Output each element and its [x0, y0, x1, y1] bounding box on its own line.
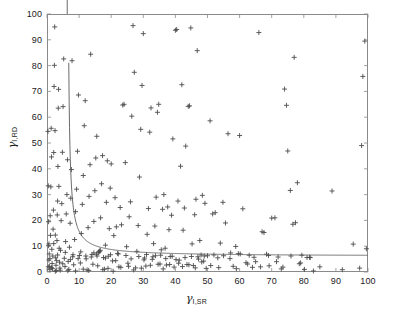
- scatter-marker: [98, 215, 103, 220]
- scatter-marker: [175, 199, 180, 204]
- scatter-marker: [77, 253, 82, 258]
- scatter-marker: [100, 153, 105, 158]
- scatter-marker: [364, 246, 369, 251]
- y-tick-label: 60: [18, 112, 42, 122]
- y-tick-label: 30: [18, 190, 42, 200]
- scatter-marker: [247, 253, 252, 258]
- scatter-marker: [195, 48, 200, 53]
- scatter-marker: [63, 239, 68, 244]
- scatter-marker: [45, 129, 50, 134]
- scatter-marker: [215, 255, 220, 260]
- scatter-marker: [74, 187, 79, 192]
- scatter-marker: [61, 56, 66, 61]
- scatter-marker: [252, 255, 257, 260]
- scatter-marker: [88, 162, 93, 167]
- scatter-marker: [311, 268, 316, 273]
- scatter-marker: [176, 261, 181, 266]
- scatter-marker: [113, 195, 118, 200]
- scatter-marker: [183, 144, 188, 149]
- tick-marks: [47, 14, 368, 272]
- scatter-marker: [51, 150, 56, 155]
- scatter-marker: [73, 268, 78, 273]
- scatter-marker: [64, 192, 69, 197]
- scatter-marker: [267, 263, 272, 268]
- scatter-marker: [200, 193, 205, 198]
- scatter-marker: [60, 150, 65, 155]
- scatter-marker: [189, 254, 194, 259]
- scatter-marker: [92, 188, 97, 193]
- scatter-marker: [113, 258, 118, 263]
- scatter-marker: [87, 194, 92, 199]
- scatter-marker: [103, 243, 108, 248]
- scatter-marker: [54, 238, 59, 243]
- y-axis-gamma-symbol: γ: [6, 142, 19, 149]
- x-tick-label: 90: [331, 276, 341, 286]
- scatter-marker: [196, 257, 201, 262]
- x-tick-label: 60: [234, 276, 244, 286]
- scatter-marker: [179, 82, 184, 87]
- scatter-marker: [52, 84, 57, 89]
- x-axis-label: γI,SR: [0, 292, 393, 305]
- scatter-marker: [126, 264, 131, 269]
- scatter-marker: [136, 254, 141, 259]
- scatter-marker: [65, 268, 70, 273]
- scatter-marker: [250, 265, 255, 270]
- scatter-marker: [56, 106, 61, 111]
- scatter-marker: [150, 254, 155, 259]
- scatter-marker: [178, 164, 183, 169]
- scatter-marker: [182, 206, 187, 211]
- scatter-marker: [164, 263, 169, 268]
- scatter-marker: [227, 256, 232, 261]
- scatter-marker: [351, 242, 356, 247]
- scatter-marker: [174, 257, 179, 262]
- scatter-marker: [360, 74, 365, 79]
- scatter-marker: [67, 245, 72, 250]
- scatter-marker: [193, 197, 198, 202]
- scatter-marker: [134, 249, 139, 254]
- scatter-marker: [49, 126, 54, 131]
- scatter-marker: [152, 224, 157, 229]
- scatter-marker: [156, 102, 161, 107]
- scatter-marker: [151, 241, 156, 246]
- scatter-marker: [55, 199, 60, 204]
- scatter-marker: [93, 155, 98, 160]
- x-axis-gamma-symbol: γ: [186, 292, 193, 305]
- scatter-marker: [146, 206, 151, 211]
- scatter-marker: [143, 264, 148, 269]
- scatter-marker: [123, 160, 128, 165]
- scatter-marker: [49, 154, 54, 159]
- scatter-marker: [71, 262, 76, 267]
- scatter-marker: [292, 55, 297, 60]
- scatter-marker: [169, 213, 174, 218]
- figure-canvas: 0102030405060708090100 01020304050607080…: [0, 0, 393, 320]
- scatter-marker: [204, 266, 209, 271]
- scatter-marker: [104, 200, 109, 205]
- scatter-marker: [94, 134, 99, 139]
- scatter-marker: [167, 262, 172, 267]
- scatter-marker: [137, 175, 142, 180]
- y-tick-label: 20: [18, 215, 42, 225]
- scatter-marker: [187, 103, 192, 108]
- scatter-marker: [237, 133, 242, 138]
- scatter-marker: [70, 58, 75, 63]
- scatter-marker: [140, 83, 145, 88]
- y-tick-label: 40: [18, 164, 42, 174]
- scatter-marker: [202, 201, 207, 206]
- scatter-marker: [122, 102, 127, 107]
- scatter-marker: [124, 244, 129, 249]
- scatter-marker: [295, 180, 300, 185]
- scatter-marker: [165, 204, 170, 209]
- scatter-marker: [173, 28, 178, 33]
- scatter-marker: [302, 267, 307, 272]
- scatter-marker: [129, 114, 134, 119]
- x-tick-label: 100: [360, 276, 375, 286]
- scatter-marker: [161, 192, 166, 197]
- scatter-marker: [180, 264, 185, 269]
- scatter-marker: [119, 222, 124, 227]
- y-tick-label: 70: [18, 86, 42, 96]
- scatter-marker: [105, 158, 110, 163]
- scatter-marker: [274, 259, 279, 264]
- scatter-marker: [183, 255, 188, 260]
- scatter-marker: [147, 130, 152, 135]
- scatter-marker: [233, 244, 238, 249]
